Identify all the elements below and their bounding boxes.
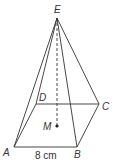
label-e: E [54,4,61,15]
edge-da [14,104,36,147]
label-b: B [74,149,81,160]
pyramid-diagram: E D C M A B 8 cm [0,0,113,165]
edge-bc [77,104,99,147]
label-d: D [39,92,46,103]
center-point-m [55,124,58,127]
pyramid-svg: E D C M A B 8 cm [0,0,113,165]
label-m: M [43,121,52,132]
edge-eb [57,18,77,147]
label-c: C [102,101,110,112]
dimension-ab: 8 cm [35,150,57,161]
label-a: A [2,147,10,158]
